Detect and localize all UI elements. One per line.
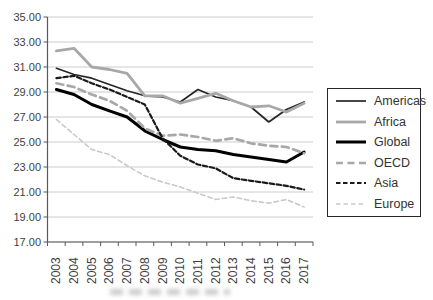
legend-item-global: Global <box>335 133 420 152</box>
x-axis-label: 2012 <box>209 257 223 284</box>
legend-line-sample-global <box>335 139 367 145</box>
x-axis-label: 2009 <box>156 257 170 284</box>
series-line-global <box>56 90 304 163</box>
legend-item-africa: Africa <box>335 112 420 131</box>
legend-label-asia: Asia <box>374 176 398 190</box>
x-axis-label: 2004 <box>67 257 81 284</box>
legend-label-oecd: OECD <box>374 156 410 170</box>
y-axis-label: 17.00 <box>0 236 41 249</box>
x-axis-label: 2008 <box>138 257 152 284</box>
legend-label-europe: Europe <box>374 197 414 211</box>
x-axis-label: 2015 <box>262 257 276 284</box>
x-axis-label: 2003 <box>49 257 63 284</box>
y-axis-label: 27.00 <box>0 111 41 124</box>
y-axis-label: 19.00 <box>0 211 41 224</box>
series-line-oecd <box>56 83 304 153</box>
cropped-caption-fragment <box>110 289 230 295</box>
series-line-africa <box>56 48 304 112</box>
legend-line-sample-oecd <box>335 160 367 166</box>
x-axis-label: 2007 <box>120 257 134 284</box>
series-line-europe <box>56 120 304 208</box>
y-axis-label: 21.00 <box>0 186 41 199</box>
y-axis-label: 29.00 <box>0 86 41 99</box>
y-axis-label: 25.00 <box>0 136 41 149</box>
y-axis-label: 31.00 <box>0 61 41 74</box>
legend-item-asia: Asia <box>335 174 420 193</box>
legend-item-americas: Americas <box>335 92 420 111</box>
legend-item-europe: Europe <box>335 194 420 213</box>
x-axis-label: 2017 <box>297 257 311 284</box>
y-axis-label: 23.00 <box>0 161 41 174</box>
x-axis-label: 2014 <box>244 257 258 284</box>
legend-line-sample-asia <box>335 180 367 186</box>
series-line-asia <box>56 76 304 190</box>
y-axis-labels: 35.0033.0031.0029.0027.0025.0023.0021.00… <box>0 0 43 300</box>
legend-line-sample-americas <box>335 98 367 104</box>
x-axis-label: 2013 <box>226 257 240 284</box>
x-axis-label: 2010 <box>173 257 187 284</box>
y-axis-label: 33.00 <box>0 36 41 49</box>
legend-label-global: Global <box>374 135 410 149</box>
legend-line-sample-europe <box>335 201 367 207</box>
legend-box: Americas Africa Global OECD Asia Europe <box>327 88 421 217</box>
y-axis-label: 35.00 <box>0 11 41 24</box>
legend-label-africa: Africa <box>374 115 406 129</box>
legend-label-americas: Americas <box>374 94 426 108</box>
x-axis-label: 2011 <box>191 258 205 284</box>
x-axis-label: 2006 <box>102 257 116 284</box>
legend-line-sample-africa <box>335 119 367 125</box>
line-chart: 2003200420052006200720082009201020112012… <box>0 0 433 300</box>
x-axis-label: 2005 <box>85 257 99 284</box>
legend-item-oecd: OECD <box>335 153 420 172</box>
x-axis-label: 2016 <box>279 257 293 284</box>
